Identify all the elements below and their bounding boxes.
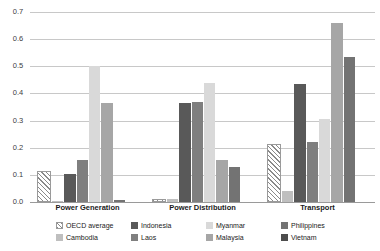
bar-philippines bbox=[344, 57, 356, 202]
bar-laos bbox=[77, 160, 89, 202]
bar-philippines bbox=[229, 167, 241, 202]
y-axis-tick-label: 0.2 bbox=[0, 144, 23, 152]
bar-myanmar bbox=[89, 66, 101, 202]
legend-label: OECD average bbox=[66, 222, 113, 229]
bar-myanmar bbox=[319, 119, 331, 202]
bar-chart: 0.00.10.20.30.40.50.60.7 Power Generatio… bbox=[0, 0, 380, 251]
bar-group-bars bbox=[30, 12, 145, 202]
plot-area: 0.00.10.20.30.40.50.60.7 bbox=[30, 12, 375, 202]
y-axis-tick-label: 0.0 bbox=[0, 198, 23, 206]
bar-philippines bbox=[114, 200, 126, 202]
bar-group-bars bbox=[260, 12, 375, 202]
bar-cambodia bbox=[282, 191, 294, 202]
bar-group bbox=[145, 12, 260, 202]
legend-item-vietnam[interactable]: Vietnam bbox=[281, 232, 356, 243]
x-axis-group-label: Power Distribution bbox=[145, 204, 260, 212]
legend-item-laos[interactable]: Laos bbox=[131, 232, 206, 243]
legend-item-philippines[interactable]: Philippines bbox=[281, 220, 356, 231]
y-axis-tick-label: 0.5 bbox=[0, 62, 23, 70]
x-axis-group-label: Transport bbox=[260, 204, 375, 212]
legend-label: Philippines bbox=[291, 222, 325, 229]
bar-laos bbox=[307, 142, 319, 202]
legend-swatch-icon bbox=[131, 234, 138, 241]
legend-label: Indonesia bbox=[141, 222, 171, 229]
bar-group bbox=[30, 12, 145, 202]
bar-oecd-average bbox=[37, 171, 51, 202]
bar-cambodia bbox=[167, 199, 179, 202]
bar-indonesia bbox=[294, 84, 306, 202]
bar-cambodia bbox=[52, 201, 64, 202]
legend-label: Laos bbox=[141, 234, 156, 241]
legend-label: Malaysia bbox=[216, 234, 244, 241]
bar-group bbox=[260, 12, 375, 202]
legend-swatch-icon bbox=[56, 222, 63, 229]
legend-swatch-icon bbox=[131, 222, 138, 229]
legend-item-malaysia[interactable]: Malaysia bbox=[206, 232, 281, 243]
legend-item-myanmar[interactable]: Myanmar bbox=[206, 220, 281, 231]
legend-swatch-icon bbox=[206, 234, 213, 241]
legend-label: Myanmar bbox=[216, 222, 245, 229]
legend-swatch-icon bbox=[56, 234, 63, 241]
bar-oecd-average bbox=[267, 144, 281, 202]
bar-myanmar bbox=[204, 83, 216, 202]
bar-group-bars bbox=[145, 12, 260, 202]
legend-swatch-icon bbox=[281, 222, 288, 229]
chart-legend: OECD averageIndonesiaMyanmarPhilippinesC… bbox=[56, 220, 356, 243]
y-axis-tick-label: 0.3 bbox=[0, 117, 23, 125]
bar-malaysia bbox=[331, 23, 343, 202]
x-axis-group-label: Power Generation bbox=[30, 204, 145, 212]
legend-item-oecd-average[interactable]: OECD average bbox=[56, 220, 131, 231]
bar-malaysia bbox=[216, 160, 228, 202]
y-axis-tick-label: 0.4 bbox=[0, 89, 23, 97]
y-axis-tick-label: 0.1 bbox=[0, 171, 23, 179]
bar-malaysia bbox=[101, 103, 113, 202]
legend-label: Cambodia bbox=[66, 234, 98, 241]
bar-oecd-average bbox=[152, 199, 166, 202]
bar-groups bbox=[30, 12, 375, 202]
bar-laos bbox=[192, 102, 204, 202]
legend-item-cambodia[interactable]: Cambodia bbox=[56, 232, 131, 243]
legend-swatch-icon bbox=[281, 234, 288, 241]
y-axis-tick-label: 0.7 bbox=[0, 8, 23, 16]
legend-label: Vietnam bbox=[291, 234, 317, 241]
legend-item-indonesia[interactable]: Indonesia bbox=[131, 220, 206, 231]
bar-indonesia bbox=[179, 103, 191, 202]
bar-indonesia bbox=[64, 174, 76, 203]
x-axis-labels: Power GenerationPower DistributionTransp… bbox=[30, 204, 375, 212]
legend-swatch-icon bbox=[206, 222, 213, 229]
y-axis-tick-label: 0.6 bbox=[0, 35, 23, 43]
